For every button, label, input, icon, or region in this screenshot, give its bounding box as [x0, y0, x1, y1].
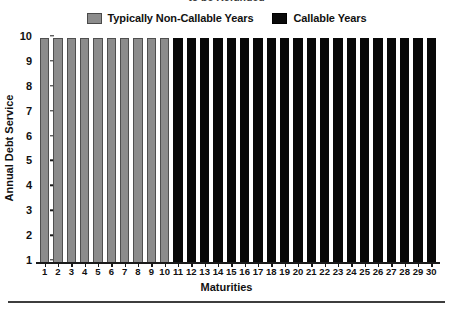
plot-area	[38, 38, 438, 262]
bar	[307, 38, 316, 262]
y-axis-tick-label: 1	[16, 255, 32, 266]
x-axis-title: Maturities	[0, 281, 453, 293]
bar	[373, 38, 382, 262]
x-axis-tick-label: 27	[386, 267, 397, 277]
y-axis-tick-label: 3	[16, 205, 32, 216]
bar	[80, 38, 89, 262]
bar	[173, 38, 182, 262]
x-axis-tick-label: 19	[279, 267, 290, 277]
bar	[160, 38, 169, 262]
bar	[107, 38, 116, 262]
x-axis-tick-label: 24	[346, 267, 357, 277]
bar	[200, 38, 209, 262]
footer-divider	[8, 301, 445, 303]
chart-title: to be Refunded	[0, 0, 453, 8]
x-axis-tick-label: 6	[109, 267, 114, 277]
x-axis-tick-label: 21	[306, 267, 317, 277]
y-axis-ticks: 10987654321	[16, 34, 32, 262]
x-axis-tick-label: 11	[173, 267, 183, 277]
legend-label-callable: Callable Years	[293, 12, 366, 24]
legend-item-non-callable: Typically Non-Callable Years	[87, 12, 254, 24]
x-axis-tick-label: 10	[159, 267, 170, 277]
x-axis-tick-label: 3	[69, 267, 74, 277]
bar	[293, 38, 302, 262]
x-axis-tick-label: 30	[426, 267, 437, 277]
x-axis-tick-labels: 1234567891011121314151617181920212223242…	[38, 267, 438, 281]
bar	[400, 38, 409, 262]
bar	[347, 38, 356, 262]
legend-swatch-icon-gray	[87, 13, 102, 24]
x-axis-tick-label: 15	[226, 267, 237, 277]
y-axis-tick-label: 8	[16, 80, 32, 91]
x-axis-tick-label: 14	[213, 267, 224, 277]
bar	[267, 38, 276, 262]
legend-item-callable: Callable Years	[272, 12, 366, 24]
bar	[120, 38, 129, 262]
bar	[413, 38, 422, 262]
x-axis-tick-label: 22	[319, 267, 330, 277]
y-axis-tick-label: 7	[16, 105, 32, 116]
x-axis-tick-label: 8	[135, 267, 140, 277]
x-axis-tick-label: 13	[199, 267, 210, 277]
y-axis-tick-mark	[50, 35, 54, 36]
bar	[93, 38, 102, 262]
x-axis-tick-label: 16	[239, 267, 250, 277]
chart-legend: Typically Non-Callable Years Callable Ye…	[0, 12, 453, 24]
bar	[427, 38, 436, 262]
x-axis-tick-label: 5	[95, 267, 100, 277]
bar	[240, 38, 249, 262]
bar	[67, 38, 76, 262]
bar-series-group	[38, 38, 438, 262]
chart-title-text: to be Refunded	[0, 0, 453, 3]
bar	[253, 38, 262, 262]
bar	[213, 38, 222, 262]
x-axis-tick-label: 4	[82, 267, 87, 277]
legend-swatch-icon-black	[272, 13, 287, 24]
x-axis-tick-label: 2	[55, 267, 60, 277]
y-axis-tick-label: 2	[16, 230, 32, 241]
x-axis-tick-label: 26	[373, 267, 384, 277]
y-axis-title-text: Annual Debt Service	[3, 94, 15, 201]
legend-label-non-callable: Typically Non-Callable Years	[108, 12, 254, 24]
bar	[280, 38, 289, 262]
x-axis-tick-label: 28	[399, 267, 410, 277]
y-axis-tick-label: 10	[16, 31, 32, 42]
x-axis-tick-label: 9	[149, 267, 154, 277]
bar	[133, 38, 142, 262]
bar	[387, 38, 396, 262]
bar	[227, 38, 236, 262]
x-axis-tick-label: 1	[42, 267, 47, 277]
x-axis-tick-label: 17	[253, 267, 264, 277]
bar	[40, 38, 49, 262]
bar	[360, 38, 369, 262]
x-axis-tick-label: 29	[413, 267, 424, 277]
y-axis-tick-label: 6	[16, 130, 32, 141]
x-axis-tick-label: 7	[122, 267, 127, 277]
x-axis-tick-label: 20	[293, 267, 304, 277]
y-axis-tick-label: 5	[16, 155, 32, 166]
bar	[320, 38, 329, 262]
y-axis-tick-label: 4	[16, 180, 32, 191]
x-axis-tick-label: 23	[333, 267, 344, 277]
y-axis-tick-label: 9	[16, 55, 32, 66]
bar	[147, 38, 156, 262]
bar	[53, 38, 62, 262]
bar	[333, 38, 342, 262]
x-axis-tick-label: 25	[359, 267, 370, 277]
x-axis-tick-label: 18	[266, 267, 277, 277]
x-axis-tick-label: 12	[186, 267, 197, 277]
bar	[187, 38, 196, 262]
